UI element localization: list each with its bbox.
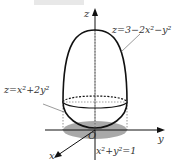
x-arrow-icon <box>54 151 62 158</box>
y-axis-label: y <box>158 134 164 144</box>
figure: z y x O z=3−2x²−y² z=x²+2y² x²+y²=1 <box>0 0 173 164</box>
z-axis-label: z <box>84 9 89 19</box>
header-bar <box>34 0 84 5</box>
upper-surface-label: z=3−2x²−y² <box>112 25 171 35</box>
origin-label: O <box>88 131 96 141</box>
x-axis-label: x <box>49 151 55 161</box>
projection-label: x²+y²=1 <box>96 146 136 156</box>
leader-lower <box>43 104 64 112</box>
z-arrow-icon <box>92 8 98 16</box>
lower-surface-label: z=x²+2y² <box>4 85 49 95</box>
leader-upper <box>121 34 140 52</box>
